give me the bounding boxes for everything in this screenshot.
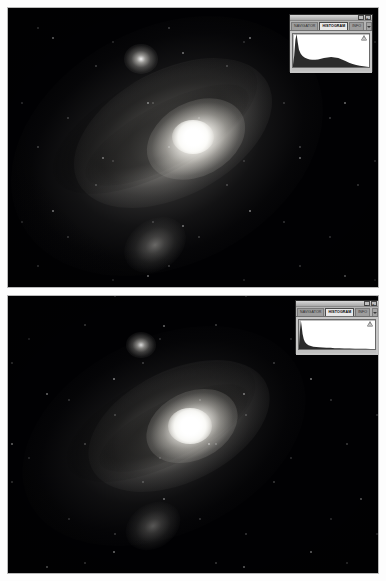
palette-tabs-top: NAVIGATOR HISTOGRAM INFO — [290, 21, 372, 31]
chevron-down-icon-top[interactable] — [366, 22, 372, 30]
minimize-button-top[interactable]: – — [358, 15, 364, 20]
cached-data-warning-icon-top[interactable] — [361, 35, 367, 41]
page-root: – × NAVIGATOR HISTOGRAM INFO — [0, 0, 386, 581]
palette-tabs-bottom: NAVIGATOR HISTOGRAM INFO — [296, 307, 378, 317]
histogram-curve-top — [293, 34, 369, 67]
tab-histogram-bottom[interactable]: HISTOGRAM — [325, 308, 354, 316]
tab-info-top[interactable]: INFO — [349, 22, 364, 30]
astrophoto-top: – × NAVIGATOR HISTOGRAM INFO — [8, 8, 378, 287]
palette-footer-bottom — [298, 350, 376, 353]
astrophoto-bottom: – × NAVIGATOR HISTOGRAM INFO — [8, 296, 378, 573]
tab-info-bottom[interactable]: INFO — [355, 308, 370, 316]
chevron-down-icon-bottom[interactable] — [372, 308, 378, 316]
histogram-plot-top — [292, 33, 370, 68]
minimize-button-bottom[interactable]: – — [364, 301, 370, 306]
tab-navigator-top[interactable]: NAVIGATOR — [291, 22, 318, 30]
palette-body-bottom — [296, 317, 378, 355]
tab-histogram-top[interactable]: HISTOGRAM — [319, 22, 348, 30]
histogram-curve-bottom — [299, 320, 375, 349]
palette-footer-top — [292, 68, 370, 71]
cached-data-warning-icon-bottom[interactable] — [367, 321, 373, 327]
histogram-palette-top[interactable]: – × NAVIGATOR HISTOGRAM INFO — [289, 14, 373, 72]
histogram-palette-bottom[interactable]: – × NAVIGATOR HISTOGRAM INFO — [295, 300, 378, 354]
palette-body-top — [290, 31, 372, 73]
close-button-bottom[interactable]: × — [371, 301, 377, 306]
close-button-top[interactable]: × — [365, 15, 371, 20]
tab-navigator-bottom[interactable]: NAVIGATOR — [297, 308, 324, 316]
histogram-plot-bottom — [298, 319, 376, 350]
